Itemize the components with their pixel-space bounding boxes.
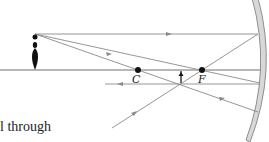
label-f: F [197, 73, 206, 86]
arrowhead-icon [117, 82, 123, 86]
concave-mirror [246, 0, 266, 142]
object-figure [32, 35, 38, 71]
arrowhead-icon [106, 52, 112, 56]
center-ray [35, 34, 258, 112]
arrowhead-icon [166, 32, 172, 36]
image-arrow [179, 71, 184, 83]
caption-text: l through [0, 119, 51, 135]
label-c: C [132, 73, 141, 86]
focal-ray-incident [35, 34, 260, 83]
